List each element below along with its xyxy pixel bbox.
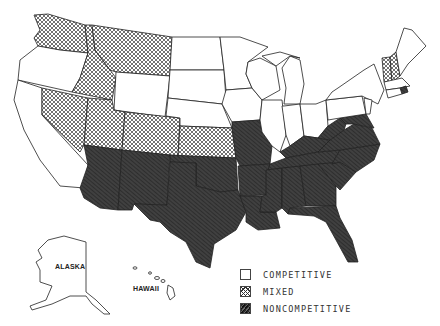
state-colorado [122, 112, 180, 156]
competitive-swatch-icon [240, 269, 251, 280]
state-florida [288, 206, 358, 262]
state-alaska [30, 236, 110, 314]
alaska-inset: ALASKA [30, 236, 110, 314]
state-arkansas [238, 164, 270, 196]
state-michigan [282, 56, 304, 104]
hawaii-label: HAWAII [133, 285, 159, 292]
state-kansas [178, 126, 236, 158]
legend: COMPETITIVE MIXED NONCOMPETITIVE [240, 266, 351, 317]
region-west [14, 14, 180, 210]
mixed-swatch-icon [240, 286, 251, 297]
state-arizona [80, 145, 122, 210]
hawaii-inset: HAWAII [133, 267, 175, 300]
noncompetitive-swatch-icon [240, 303, 251, 314]
state-wyoming [114, 72, 170, 117]
state-maine [396, 28, 426, 76]
state-north-dakota [170, 37, 224, 70]
legend-item-competitive: COMPETITIVE [240, 266, 351, 283]
legend-item-noncompetitive: NONCOMPETITIVE [240, 300, 351, 317]
legend-item-mixed: MIXED [240, 283, 351, 300]
state-new-mexico [118, 150, 170, 210]
alaska-label: ALASKA [55, 263, 85, 270]
region-northeast [326, 28, 426, 120]
us-map: ALASKA HAWAII [0, 0, 440, 326]
state-connecticut [386, 88, 402, 98]
